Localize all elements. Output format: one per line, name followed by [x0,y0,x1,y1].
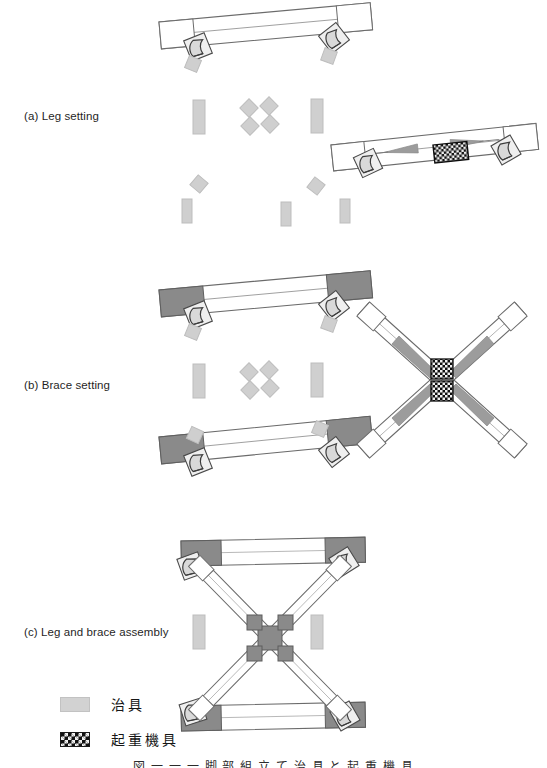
lifting-gear-block-b-lower [431,381,453,401]
legend-label-jig: 治具 [111,694,145,714]
jig-lower-a-3 [281,202,291,226]
jig-diamond-b-3 [241,381,259,399]
legend-swatch-crane-icon [60,732,90,747]
brace-cross-assembly-b [357,302,527,458]
jig-diamond-a-2 [260,97,278,115]
jig-left-upper-a [193,100,205,134]
jig-diamond-a-3 [241,117,259,135]
leg-joint-slung-a-right [491,135,521,165]
jig-left-c [193,615,205,649]
brace-diagonal-c-b [189,555,352,720]
jig-lower-a-5 [340,199,350,223]
lifting-gear-block-a [433,141,469,162]
jig-diamond-b-2 [260,361,278,379]
jig-under-joint-a-right [321,48,338,65]
legend-swatch-jig-icon [60,697,90,712]
jig-diamond-a-4 [261,115,279,133]
jig-above-joint-b-left [186,426,203,443]
legend-item-crane: 起重機具 [60,729,179,749]
jig-right-b [311,363,323,397]
jig-lower-a-4 [307,177,325,195]
jig-under-joint-a-left [185,56,202,73]
leg-joint-b-upper-left [184,301,213,330]
leg-member-top-c [181,537,365,566]
jig-left-b [193,364,205,398]
jig-lower-a-1 [190,175,208,193]
jig-right-upper-a [311,99,323,133]
leg-joint-a-right [319,23,350,54]
leg-joint-a-left [184,33,213,62]
leg-joint-c-top-right [329,547,359,577]
panel-label-a: (a) Leg setting [24,110,99,122]
jig-diamond-a-1 [240,99,258,117]
leg-joint-c-bottom-left [179,698,207,726]
legend-item-jig: 治具 [60,694,145,714]
lifting-gear-block-b-upper [431,359,453,379]
center-gusset-c [247,615,293,661]
panel-label-b: (b) Brace setting [24,379,110,391]
leg-joint-c-top-left [177,552,205,580]
jig-diamond-b-1 [240,363,258,381]
panel-label-c: (c) Leg and brace assembly [24,626,169,638]
figure-page: (a) Leg setting (b) Brace setting (c) Le… [0,0,547,768]
leg-member-upper-a [159,3,373,49]
leg-joint-b-lower-right [319,437,350,468]
leg-joint-b-lower-left [184,448,213,477]
leg-member-upper-b [159,271,373,317]
brace-diagonal-c-a [189,555,352,720]
jig-under-joint-b-right [321,316,338,333]
leg-member-slung-a [331,123,539,170]
leg-joint-c-bottom-right [330,701,360,731]
jig-above-joint-b-right [312,421,329,438]
panel-c-artwork [177,537,366,731]
figure-caption: 図 一 一 一 脚 部 組 立 て 治 具 と 起 重 機 具 [0,757,547,768]
jig-under-joint-b-left [185,324,202,341]
leg-member-bottom-c [181,702,365,731]
leg-joint-slung-a-left [353,148,382,177]
leg-member-lower-b [159,416,373,464]
panel-b-artwork [159,271,527,477]
brace-slings-b [392,336,494,426]
jig-lower-a-2 [182,199,192,223]
leg-joint-b-upper-right [319,291,350,322]
jig-diamond-b-4 [261,379,279,397]
jig-right-c [311,615,323,649]
panel-a-artwork [159,3,539,226]
legend-label-crane: 起重機具 [111,729,179,749]
